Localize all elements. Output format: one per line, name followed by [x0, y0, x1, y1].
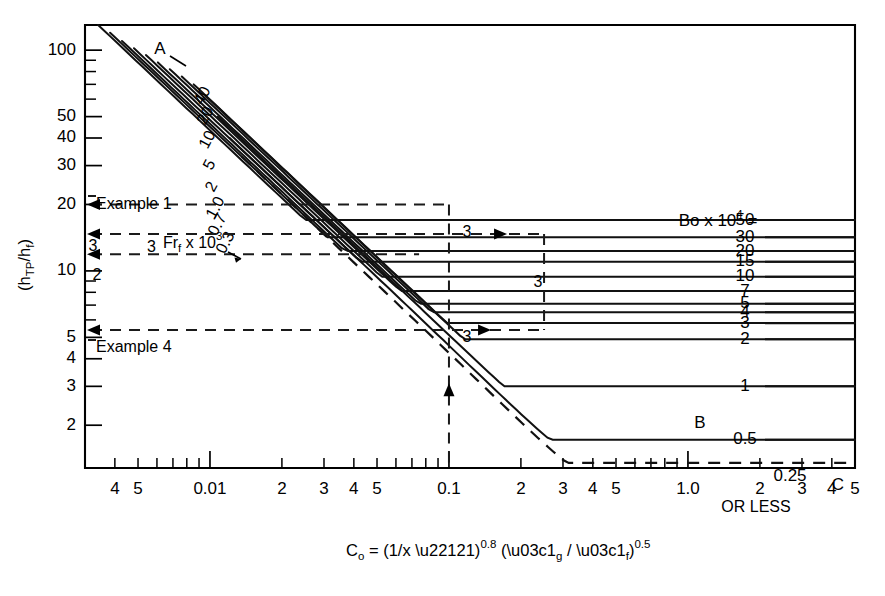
legend-prefix-text: Bo x 10	[679, 211, 737, 230]
y-tick-label: 100	[48, 40, 76, 59]
svg-text:3: 3	[147, 238, 156, 255]
label-example-1: Example 1	[96, 195, 172, 212]
x-tick-label: 0.1	[437, 479, 461, 498]
x-title-eq: = (1/x \u22121)	[364, 541, 480, 559]
x-title-exp-05: 0.5	[634, 538, 650, 550]
y-tick-label: 5	[67, 327, 76, 346]
nomograph-chart: 10050403020105432 450.0123450.123451.023…	[0, 0, 885, 596]
x-tick-label: 1.0	[676, 479, 700, 498]
svg-text:Bo x 104 =: Bo x 104 =	[679, 208, 758, 230]
family-fr-text: Fr	[163, 234, 179, 251]
label-point-a: A	[154, 39, 166, 58]
bo-legend-value: 0.25	[773, 466, 806, 485]
y-tick-label: 40	[57, 127, 76, 146]
y-title-c: )	[15, 239, 33, 245]
label-step-3-mid: 3	[463, 223, 472, 240]
family-fr-mult: x 10	[181, 234, 216, 251]
label-step-3-left: 3	[89, 237, 98, 254]
x-tick-label: 2	[516, 479, 525, 498]
svg-text:Co = (1/x \u22121)0.8 (\u03c1: Co = (1/x \u22121)0.8 (\u03c1g / \u03c1f…	[346, 538, 650, 562]
x-tick-label: 5	[372, 479, 381, 498]
label-point-b: B	[694, 413, 705, 432]
y-tick-label: 2	[67, 415, 76, 434]
x-title-paren: (\u03c1	[496, 541, 556, 559]
x-tick-label: 5	[133, 479, 142, 498]
y-title-b: /h	[15, 248, 33, 262]
x-axis-title: Co = (1/x \u22121)0.8 (\u03c1g / \u03c1f…	[346, 538, 650, 562]
label-step-3-low: 3	[463, 328, 472, 345]
svg-text:Frf x 103: Frf x 103	[163, 230, 222, 254]
label-or-less: OR LESS	[721, 498, 790, 515]
y-title-sub-tp: TP	[24, 261, 36, 276]
label-step-3-right: 3	[534, 273, 543, 290]
x-tick-label: 2	[755, 479, 764, 498]
x-tick-label: 3	[558, 479, 567, 498]
label-step-2-left: 2	[93, 266, 102, 283]
nomograph-svg: 10050403020105432 450.0123450.123451.023…	[0, 0, 885, 596]
family-step-num: 3	[147, 238, 156, 255]
x-tick-label: 2	[277, 479, 286, 498]
x-title-c: C	[346, 541, 358, 559]
y-tick-label: 20	[57, 194, 76, 213]
y-tick-label: 4	[67, 348, 76, 367]
y-tick-label: 50	[57, 106, 76, 125]
y-tick-label: 30	[57, 155, 76, 174]
y-tick-label: 10	[57, 260, 76, 279]
x-title-slash: / \u03c1	[562, 541, 625, 559]
legend-header: Bo x 104 =	[679, 208, 758, 230]
family-fr-exp: 3	[216, 230, 222, 242]
label-example-4: Example 4	[96, 338, 172, 355]
label-point-c: C	[832, 475, 844, 494]
x-title-exp-08: 0.8	[480, 538, 496, 550]
x-tick-label: 5	[611, 479, 620, 498]
y-tick-label: 3	[67, 376, 76, 395]
x-tick-label: 0.01	[193, 479, 226, 498]
bo-legend-value: 1	[740, 376, 749, 395]
x-tick-label: 4	[349, 479, 358, 498]
x-tick-label: 4	[588, 479, 597, 498]
x-tick-label: 4	[110, 479, 119, 498]
bo-legend-value: 2	[740, 329, 749, 348]
y-title-a: (h	[15, 276, 33, 291]
x-tick-label: 3	[319, 479, 328, 498]
bo-legend-value: 0.5	[733, 429, 757, 448]
x-tick-label: 5	[850, 479, 859, 498]
